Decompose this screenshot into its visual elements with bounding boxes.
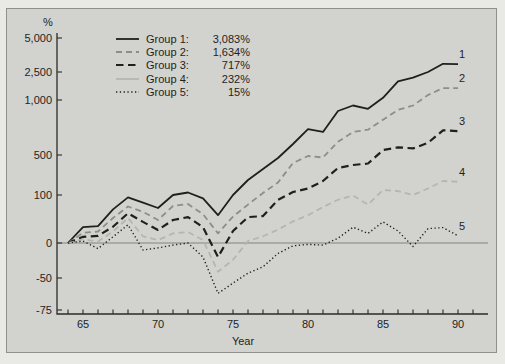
legend-series-name: Group 1:	[146, 33, 189, 45]
series-end-label: 1	[455, 48, 469, 60]
legend-row-group-2: Group 2:1,634%	[116, 45, 250, 58]
legend-row-group-3: Group 3:717%	[116, 59, 250, 72]
legend-swatch-line-icon	[116, 49, 139, 55]
series-end-label: 5	[455, 220, 469, 232]
legend-text: Group 3:717%	[146, 59, 250, 71]
legend-series-name: Group 5:	[146, 86, 189, 98]
legend-series-name: Group 4:	[146, 73, 189, 85]
legend-row-group-1: Group 1:3,083%	[116, 32, 250, 45]
legend-swatch-line-icon	[116, 89, 139, 95]
y-tick-label: -50	[12, 272, 52, 284]
legend-text: Group 2:1,634%	[146, 46, 250, 58]
legend-series-value: 717%	[189, 59, 250, 71]
y-tick-label: 100	[12, 189, 52, 201]
series-line-group-2	[68, 88, 458, 243]
x-tick-label: 80	[293, 318, 323, 330]
series-end-label: 2	[455, 72, 469, 84]
legend-series-name: Group 2:	[146, 46, 189, 58]
x-tick-label: 70	[143, 318, 173, 330]
x-tick-label: 85	[368, 318, 398, 330]
y-tick-label: 500	[12, 149, 52, 161]
legend-text: Group 4:232%	[146, 73, 250, 85]
legend-series-value: 232%	[189, 73, 250, 85]
legend: Group 1:3,083%Group 2:1,634%Group 3:717%…	[116, 32, 250, 99]
x-tick-label: 90	[443, 318, 473, 330]
x-tick-label: 75	[218, 318, 248, 330]
series-end-label: 4	[455, 166, 469, 178]
legend-series-name: Group 3:	[146, 59, 189, 71]
series-line-group-5	[68, 222, 458, 294]
y-axis-unit-label: %	[38, 16, 58, 28]
legend-series-value: 15%	[189, 86, 250, 98]
legend-swatch-line-icon	[116, 36, 139, 42]
y-tick-label: 2,500	[12, 66, 52, 78]
line-chart	[0, 0, 505, 364]
legend-row-group-4: Group 4:232%	[116, 72, 250, 85]
legend-swatch-line-icon	[116, 62, 139, 68]
legend-row-group-5: Group 5:15%	[116, 86, 250, 99]
x-tick-label: 65	[68, 318, 98, 330]
figure: % Year Group 1:3,083%Group 2:1,634%Group…	[0, 0, 505, 364]
y-tick-label: 5,000	[12, 32, 52, 44]
legend-series-value: 3,083%	[189, 33, 250, 45]
series-end-label: 3	[455, 115, 469, 127]
legend-swatch-line-icon	[116, 76, 139, 82]
series-line-group-4	[68, 181, 458, 272]
y-tick-label: 0	[12, 237, 52, 249]
y-tick-label: -75	[12, 304, 52, 316]
x-axis-title: Year	[213, 335, 273, 347]
legend-series-value: 1,634%	[189, 46, 250, 58]
y-tick-label: 1,000	[12, 94, 52, 106]
legend-text: Group 1:3,083%	[146, 33, 250, 45]
legend-text: Group 5:15%	[146, 86, 250, 98]
